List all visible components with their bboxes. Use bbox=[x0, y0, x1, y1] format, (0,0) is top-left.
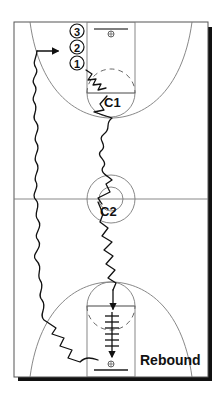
court-boundary bbox=[14, 22, 208, 377]
coach-c2-label: C2 bbox=[100, 204, 117, 219]
player-3: 3 bbox=[70, 24, 84, 38]
player-1: 1 bbox=[70, 56, 84, 70]
court-diagram: 3 2 1 C1 C2 Rebound bbox=[0, 0, 222, 399]
svg-text:2: 2 bbox=[74, 42, 80, 54]
player-2: 2 bbox=[70, 40, 84, 54]
top-basket-icon bbox=[108, 31, 114, 37]
svg-text:3: 3 bbox=[74, 26, 80, 38]
bottom-basket-icon bbox=[108, 361, 114, 367]
svg-text:1: 1 bbox=[74, 58, 80, 70]
rebound-label: Rebound bbox=[140, 352, 201, 368]
coach-c1-label: C1 bbox=[104, 95, 121, 110]
